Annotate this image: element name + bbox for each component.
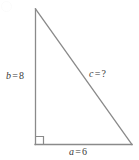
label-a-operator: = — [74, 146, 82, 157]
right-angle-marker — [36, 137, 44, 145]
label-b-value: 8 — [19, 70, 24, 81]
label-vertical-leg-b: b=8 — [6, 70, 24, 81]
label-c-value: ? — [101, 68, 106, 79]
label-hypotenuse-c: c=? — [89, 68, 106, 79]
hypotenuse-c — [36, 9, 133, 145]
right-triangle-figure: b=8 c=? a=6 — [0, 0, 139, 160]
label-a-value: 6 — [82, 146, 87, 157]
label-c-variable: c — [89, 68, 94, 79]
label-b-operator: = — [11, 70, 19, 81]
label-horizontal-leg-a: a=6 — [69, 146, 87, 157]
